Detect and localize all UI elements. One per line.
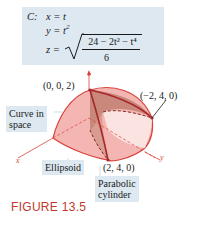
sqrt-radical-icon [64, 33, 84, 61]
z-numerator: 24 − 2t² − t⁴ [85, 36, 140, 47]
z-axis-label: z [88, 70, 91, 78]
callout-cylinder-line2: cylinder [98, 189, 136, 200]
z-equation-lhs: z = [46, 45, 60, 56]
fraction-line [82, 49, 140, 50]
x-equation: x = t [46, 12, 66, 23]
callout-curve-line1: Curve in [9, 108, 44, 119]
callout-curve-line2: space [9, 119, 44, 130]
callout-parabolic-cylinder: Parabolic cylinder [95, 176, 139, 202]
x-axis [18, 138, 53, 158]
x-axis-label: x [16, 156, 20, 165]
callout-curve-in-space: Curve in space [6, 106, 47, 132]
y-equation-exponent: 2 [66, 23, 70, 31]
y-equation-base: y = t [46, 25, 66, 36]
callout-cylinder-line1: Parabolic [98, 178, 136, 189]
callout-ellipsoid: Ellipsoid [42, 160, 84, 175]
point-label-bottom: (2, 4, 0) [103, 162, 135, 173]
sqrt-bar [82, 34, 142, 35]
y-axis-label: y [160, 153, 164, 162]
z-denominator: 6 [104, 52, 109, 63]
point-label-top: (0, 0, 2) [43, 80, 75, 91]
curve-label: C: [27, 12, 38, 23]
point-label-right: (−2, 4, 0) [140, 90, 177, 101]
figure-caption: FIGURE 13.5 [11, 200, 86, 214]
